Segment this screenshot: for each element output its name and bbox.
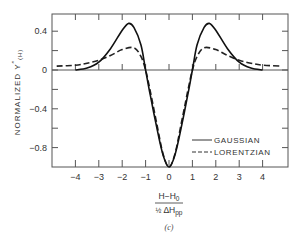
x-tick-label: 0 [166, 172, 171, 182]
figure-caption: (c) [165, 223, 174, 232]
x-tick-label: 3 [237, 172, 242, 182]
y-tick-label: −0.8 [29, 143, 47, 153]
gaussian-curve [75, 23, 262, 167]
x-tick-label: 4 [260, 172, 265, 182]
x-tick-label: 2 [213, 172, 218, 182]
x-label-numerator: H−H0 [159, 191, 180, 202]
x-tick-label: −4 [70, 172, 80, 182]
chart-canvas: −4−3−2−1012340.40−0.4−0.8 NORMALIZED Y″(… [0, 0, 298, 240]
y-tick-label: −0.4 [29, 104, 47, 114]
legend: GAUSSIAN LORENTZIAN [192, 136, 271, 157]
y-axis-label: NORMALIZED Y″(H) [11, 49, 23, 136]
x-tick-label: −2 [117, 172, 127, 182]
x-tick-label: −1 [140, 172, 150, 182]
y-tick-label: 0.4 [34, 26, 47, 36]
x-tick-label: 1 [190, 172, 195, 182]
svg-text:NORMALIZED Y″(H): NORMALIZED Y″(H) [11, 49, 23, 136]
legend-lorentzian-label: LORENTZIAN [214, 148, 271, 157]
axis-tick-labels: −4−3−2−1012340.40−0.4−0.8 [29, 26, 265, 182]
y-tick-label: 0 [42, 65, 47, 75]
x-label-denominator: ½ΔHpp [156, 205, 183, 217]
x-axis-label: H−H0 ½ΔHpp [155, 191, 183, 217]
legend-gaussian-label: GAUSSIAN [214, 136, 260, 145]
x-tick-label: −3 [94, 172, 104, 182]
